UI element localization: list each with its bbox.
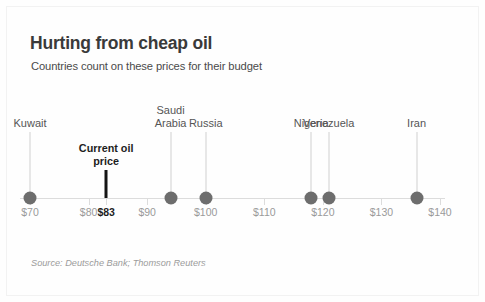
point-label-line: Iran [407, 117, 426, 129]
data-point-kuwait[interactable] [24, 192, 37, 205]
leader-line [311, 132, 312, 192]
x-axis-tick [440, 198, 441, 205]
chart-figure: Hurting from cheap oil Countries count o… [0, 0, 485, 302]
x-axis-tick-label-current: $83 [97, 206, 115, 218]
leader-line [328, 132, 329, 192]
x-axis-tick-label: $130 [370, 206, 393, 218]
current-price-marker[interactable] [105, 170, 108, 198]
leader-line [416, 132, 417, 192]
point-label-iran: Iran [407, 117, 426, 130]
leader-line [30, 132, 31, 192]
x-axis-tick-label: $90 [138, 206, 156, 218]
data-point-russia[interactable] [199, 192, 212, 205]
point-label-line: Russia [189, 117, 223, 129]
x-axis-tick-label: $100 [194, 206, 217, 218]
source-note: Source: Deutsche Bank; Thomson Reuters [31, 258, 206, 268]
plot-area: $70$80$83$90$100$110$120$130$140KuwaitSa… [0, 0, 485, 302]
x-axis-tick [106, 198, 107, 205]
x-axis-tick-label: $140 [428, 206, 451, 218]
x-axis-tick [89, 198, 90, 205]
current-price-label-line: price [79, 155, 134, 168]
x-axis-tick-label: $120 [311, 206, 334, 218]
point-label-line: Kuwait [13, 117, 46, 129]
current-price-label-line: Current oil [79, 142, 134, 154]
x-axis-tick [264, 198, 265, 205]
x-axis-tick-label: $70 [21, 206, 39, 218]
data-point-venezuela[interactable] [322, 192, 335, 205]
data-point-nigeria[interactable] [305, 192, 318, 205]
x-axis-tick-label: $80 [80, 206, 98, 218]
point-label-saudi-arabia: SaudiArabia [155, 104, 187, 129]
x-axis-tick [381, 198, 382, 205]
point-label-kuwait: Kuwait [13, 117, 46, 130]
x-axis-tick [147, 198, 148, 205]
point-label-line: Venezuela [303, 117, 354, 129]
x-axis-tick-label: $110 [253, 206, 276, 218]
current-price-label: Current oilprice [79, 142, 134, 167]
point-label-venezuela: Venezuela [303, 117, 354, 130]
data-point-saudi-arabia[interactable] [164, 192, 177, 205]
point-label-line: Saudi [156, 104, 184, 116]
data-point-iran[interactable] [410, 192, 423, 205]
leader-line [205, 132, 206, 192]
point-label-line: Arabia [155, 117, 187, 130]
point-label-russia: Russia [189, 117, 223, 130]
leader-line [170, 132, 171, 192]
